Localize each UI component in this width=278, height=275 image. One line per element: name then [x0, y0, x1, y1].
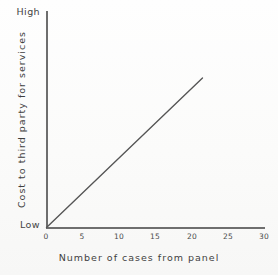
x-axis-title: Number of cases from panel [0, 252, 278, 263]
x-tick-label: 15 [150, 232, 160, 241]
chart-figure: High Low Cost to third party for service… [0, 0, 278, 275]
x-tick-label: 10 [114, 232, 124, 241]
x-tick-label: 30 [259, 232, 269, 241]
x-tick-label: 20 [187, 232, 197, 241]
x-tick-label: 25 [223, 232, 233, 241]
x-tick-label: 5 [79, 232, 84, 241]
x-axis-tick-labels: 0 5 10 15 20 25 30 [0, 232, 278, 246]
y-axis-title: Cost to third party for services [16, 15, 27, 225]
x-tick-label: 0 [43, 232, 48, 241]
plot-area: High Low Cost to third party for service… [0, 0, 278, 275]
